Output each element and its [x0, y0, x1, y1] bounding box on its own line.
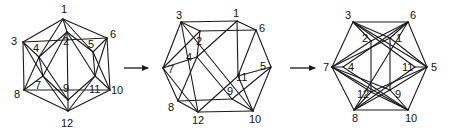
vertex-label-4: 4 [33, 42, 39, 54]
vertex-label-9: 9 [395, 88, 401, 100]
icosahedron-transformation-diagram: 123456789101112 123456789101112 12345678… [0, 0, 453, 130]
edge-1-3 [23, 19, 63, 42]
vertex-label-6: 6 [410, 9, 416, 21]
edge-1-11 [237, 21, 238, 76]
vertex-label-12: 12 [357, 88, 369, 100]
vertex-label-8: 8 [352, 112, 358, 124]
edge-1-4 [39, 19, 63, 57]
vertex-label-3: 3 [345, 9, 351, 21]
vertex-label-2: 2 [63, 35, 69, 47]
edge-5-10 [253, 67, 271, 111]
vertex-label-11: 11 [402, 61, 413, 73]
edge-3-1 [181, 21, 237, 22]
vertex-label-12: 12 [192, 114, 204, 126]
icosahedron-final: 123456789101112 [323, 9, 437, 124]
vertex-label-10: 10 [405, 112, 417, 124]
vertex-label-1: 1 [233, 7, 239, 19]
vertex-label-8: 8 [168, 101, 174, 113]
vertex-label-11: 11 [89, 83, 100, 95]
edge-1-6 [237, 21, 256, 30]
edge-1-4 [197, 21, 237, 57]
edge-7-1 [332, 38, 390, 67]
vertex-label-10: 10 [249, 113, 261, 125]
vertex-label-8: 8 [14, 88, 20, 100]
vertex-label-6: 6 [259, 22, 265, 34]
edge-8-9 [178, 99, 232, 101]
edge-3-7 [163, 22, 181, 68]
icosahedron-initial: 123456789101112 [11, 3, 123, 129]
vertex-label-9: 9 [227, 85, 233, 97]
edge-12-10 [198, 111, 253, 112]
vertex-label-3: 3 [11, 35, 17, 47]
vertex-label-7: 7 [323, 61, 329, 73]
vertex-label-6: 6 [110, 28, 116, 40]
vertex-label-3: 3 [176, 9, 182, 21]
vertex-label-4: 4 [186, 51, 192, 63]
vertex-label-12: 12 [61, 117, 73, 129]
vertex-label-5: 5 [88, 38, 94, 50]
vertex-label-7: 7 [168, 63, 174, 75]
vertex-label-4: 4 [348, 61, 354, 73]
vertex-label-5: 5 [431, 61, 437, 73]
vertex-label-9: 9 [63, 82, 69, 94]
vertex-label-10: 10 [111, 84, 123, 96]
vertex-label-1: 1 [396, 32, 402, 44]
vertex-label-2: 2 [362, 32, 368, 44]
edge-8-12 [178, 101, 198, 112]
edge-2-3 [181, 22, 200, 31]
vertex-label-2: 2 [196, 35, 202, 47]
edge-6-10 [107, 38, 110, 90]
vertex-label-5: 5 [260, 60, 266, 72]
edge-6-11 [238, 30, 256, 76]
vertex-label-1: 1 [61, 3, 67, 15]
edge-6-2 [200, 30, 256, 31]
edge-3-8 [23, 42, 24, 90]
vertex-label-11: 11 [236, 71, 247, 83]
icosahedron-intermediate: 123456789101112 [163, 7, 271, 126]
vertex-label-7: 7 [35, 79, 41, 91]
